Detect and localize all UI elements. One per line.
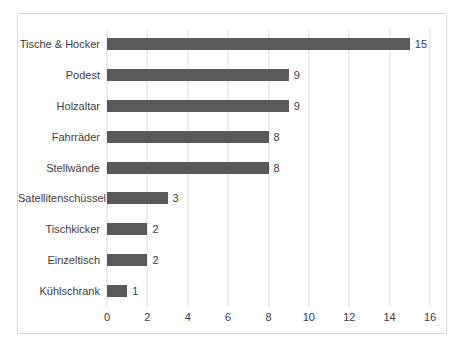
bar <box>107 285 127 297</box>
bar <box>107 69 289 81</box>
value-label: 1 <box>132 285 138 297</box>
x-tick-label: 6 <box>225 311 231 323</box>
bar-row: Satellitenschüssel3 <box>18 183 430 214</box>
value-label: 15 <box>415 38 427 50</box>
bar-track: 2 <box>107 214 430 245</box>
bar-row: Tischkicker2 <box>18 214 430 245</box>
x-tick-label: 4 <box>185 311 191 323</box>
bar-track: 8 <box>107 152 430 183</box>
category-label: Tische & Hocker <box>18 38 107 50</box>
category-label: Holzaltar <box>18 100 107 112</box>
category-label: Satellitenschüssel <box>18 192 107 204</box>
value-label: 9 <box>294 100 300 112</box>
category-label: Fahrräder <box>18 131 107 143</box>
bar-track: 1 <box>107 275 430 306</box>
bar-track: 9 <box>107 91 430 122</box>
value-label: 3 <box>173 192 179 204</box>
bar-track: 8 <box>107 121 430 152</box>
value-label: 2 <box>152 223 158 235</box>
bar <box>107 254 147 266</box>
bar <box>107 131 269 143</box>
x-tick-label: 16 <box>424 311 436 323</box>
value-label: 2 <box>152 254 158 266</box>
bar-row: Fahrräder8 <box>18 121 430 152</box>
bar <box>107 100 289 112</box>
bar-rows: Tische & Hocker15Podest9Holzaltar9Fahrrä… <box>18 29 430 306</box>
x-tick-label: 8 <box>265 311 271 323</box>
bar-track: 9 <box>107 60 430 91</box>
x-tick-label: 14 <box>384 311 396 323</box>
category-label: Stellwände <box>18 162 107 174</box>
bar <box>107 223 147 235</box>
category-label: Podest <box>18 69 107 81</box>
bar <box>107 192 168 204</box>
bar-row: Kühlschrank1 <box>18 275 430 306</box>
value-label: 8 <box>274 131 280 143</box>
x-tick-label: 10 <box>303 311 315 323</box>
chart-frame: Tische & Hocker15Podest9Holzaltar9Fahrrä… <box>17 13 447 334</box>
bar <box>107 162 269 174</box>
bar <box>107 38 410 50</box>
bar-row: Einzeltisch2 <box>18 244 430 275</box>
category-label: Tischkicker <box>18 223 107 235</box>
x-tick-label: 12 <box>343 311 355 323</box>
bar-track: 15 <box>107 29 430 60</box>
bar-track: 3 <box>107 183 430 214</box>
value-label: 9 <box>294 69 300 81</box>
x-tick-label: 2 <box>144 311 150 323</box>
x-axis: 0246810121416 <box>107 311 430 325</box>
bar-row: Holzaltar9 <box>18 91 430 122</box>
x-tick-label: 0 <box>104 311 110 323</box>
bar-row: Stellwände8 <box>18 152 430 183</box>
bar-row: Tische & Hocker15 <box>18 29 430 60</box>
category-label: Kühlschrank <box>18 285 107 297</box>
category-label: Einzeltisch <box>18 254 107 266</box>
bar-row: Podest9 <box>18 60 430 91</box>
value-label: 8 <box>274 162 280 174</box>
bar-track: 2 <box>107 244 430 275</box>
